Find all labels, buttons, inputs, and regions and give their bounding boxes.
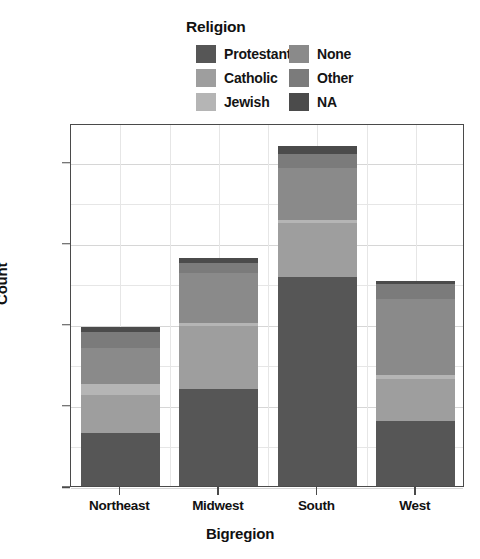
plot-area [70, 124, 464, 487]
chart-figure: Religion Protestant Catholic Jewish [0, 0, 480, 559]
bar-segment-northeast-jewish[interactable] [81, 384, 160, 395]
legend-label-jewish: Jewish [224, 95, 270, 109]
x-tick-mark-3 [414, 487, 416, 495]
legend-swatch-jewish [196, 93, 216, 111]
bar-segment-northeast-none[interactable] [81, 348, 160, 384]
y-tick-mark-1000 [62, 162, 70, 164]
legend-label-protestant: Protestant [224, 47, 291, 61]
legend-label-catholic: Catholic [224, 71, 278, 85]
bar-segment-northeast-protestant[interactable] [81, 433, 160, 486]
bar-group-west[interactable] [376, 281, 455, 486]
x-tick-mark-2 [316, 487, 318, 495]
bar-group-northeast[interactable] [81, 327, 160, 486]
x-tick-label-northeast: Northeast [89, 498, 149, 513]
legend-label-na: NA [317, 95, 337, 109]
bar-group-south[interactable] [278, 146, 357, 486]
x-tick-mark-1 [217, 487, 219, 495]
bar-segment-midwest-catholic[interactable] [179, 326, 258, 389]
bar-segment-south-none[interactable] [278, 168, 357, 220]
legend-swatch-catholic [196, 69, 216, 87]
bar-segment-south-na[interactable] [278, 146, 357, 154]
bar-segment-south-other[interactable] [278, 154, 357, 169]
bar-group-midwest[interactable] [179, 258, 258, 486]
legend-title: Religion [186, 18, 246, 36]
bar-segment-midwest-other[interactable] [179, 263, 258, 273]
y-tick-mark-750 [62, 243, 70, 245]
legend-swatch-na [289, 93, 309, 111]
legend-item-other[interactable]: Other [289, 67, 353, 88]
bar-segment-west-protestant[interactable] [376, 421, 455, 486]
legend-swatch-none [289, 45, 309, 63]
bar-segment-west-none[interactable] [376, 299, 455, 375]
legend-item-none[interactable]: None [289, 43, 353, 64]
x-tick-label-south: South [298, 498, 335, 513]
legend-column-left: Protestant Catholic Jewish [196, 43, 291, 115]
chart-legend: Religion Protestant Catholic Jewish [0, 10, 480, 115]
legend-item-protestant[interactable]: Protestant [196, 43, 291, 64]
legend-label-none: None [317, 47, 351, 61]
y-axis-label: Count [0, 263, 10, 305]
bar-segment-northeast-other[interactable] [81, 332, 160, 348]
legend-label-other: Other [317, 71, 353, 85]
legend-column-right: None Other NA [289, 43, 353, 115]
bar-segment-northeast-catholic[interactable] [81, 395, 160, 432]
y-tick-mark-250 [62, 405, 70, 407]
x-tick-mark-0 [119, 487, 121, 495]
legend-swatch-protestant [196, 45, 216, 63]
y-tick-mark-0 [62, 486, 70, 488]
legend-item-na[interactable]: NA [289, 91, 353, 112]
bar-segment-west-catholic[interactable] [376, 379, 455, 421]
legend-swatch-other [289, 69, 309, 87]
bar-segment-midwest-protestant[interactable] [179, 389, 258, 486]
x-axis-label: Bigregion [0, 525, 480, 542]
bar-segment-midwest-none[interactable] [179, 273, 258, 323]
bars-layer [71, 125, 463, 486]
legend-item-catholic[interactable]: Catholic [196, 67, 291, 88]
bar-segment-south-protestant[interactable] [278, 277, 357, 486]
x-tick-label-west: West [399, 498, 430, 513]
bar-segment-south-catholic[interactable] [278, 223, 357, 276]
bar-segment-west-other[interactable] [376, 284, 455, 299]
gridline-y-0 [71, 488, 463, 489]
y-tick-mark-500 [62, 324, 70, 326]
x-tick-label-midwest: Midwest [192, 498, 243, 513]
legend-item-jewish[interactable]: Jewish [196, 91, 291, 112]
